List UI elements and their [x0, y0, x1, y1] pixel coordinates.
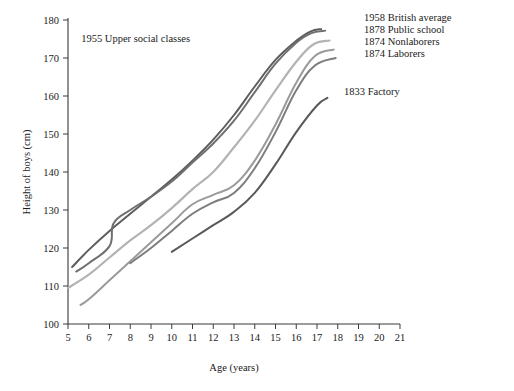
x-tick-label: 17: [312, 332, 323, 343]
axis-lines: [68, 18, 400, 324]
x-tick-label: 11: [187, 332, 197, 343]
y-tick-label: 180: [43, 15, 59, 26]
x-tick-label: 20: [374, 332, 385, 343]
x-tick-label: 6: [86, 332, 91, 343]
y-tick-label: 170: [43, 53, 59, 64]
series-line: [68, 41, 329, 288]
y-tick-label: 110: [44, 281, 59, 292]
series-labels: 1958 British average1955 Upper social cl…: [81, 12, 452, 97]
x-tick-label: 14: [250, 332, 261, 343]
series-label: 1958 British average: [364, 12, 452, 23]
y-tick-label: 150: [43, 129, 59, 140]
x-tick-label: 5: [65, 332, 70, 343]
y-axis-title: Height of boys (cm): [21, 129, 33, 214]
y-tick-label: 120: [43, 243, 59, 254]
series-label: 1874 Laborers: [364, 48, 425, 59]
series-lines: [68, 29, 336, 305]
axes: 1001101201301401501601701805678910111213…: [43, 15, 405, 343]
series-label: 1955 Upper social classes: [81, 33, 190, 44]
x-tick-label: 7: [107, 332, 112, 343]
x-tick-label: 18: [333, 332, 344, 343]
series-line: [72, 29, 321, 267]
x-tick-label: 16: [291, 332, 302, 343]
y-tick-label: 160: [43, 91, 59, 102]
series-label: 1874 Nonlaborers: [364, 36, 440, 47]
x-tick-label: 12: [208, 332, 219, 343]
series-label: 1833 Factory: [344, 86, 400, 97]
x-tick-label: 19: [353, 332, 364, 343]
x-tick-label: 9: [148, 332, 153, 343]
y-tick-label: 140: [43, 167, 59, 178]
y-tick-label: 100: [43, 319, 59, 330]
series-label: 1878 Public school: [364, 24, 445, 35]
x-tick-label: 8: [128, 332, 133, 343]
y-tick-label: 130: [43, 205, 59, 216]
x-tick-label: 10: [167, 332, 178, 343]
x-axis-title: Age (years): [209, 362, 259, 374]
x-tick-label: 21: [395, 332, 406, 343]
series-line: [76, 31, 325, 272]
x-tick-label: 15: [270, 332, 281, 343]
x-tick-label: 13: [229, 332, 240, 343]
line-chart-svg: 1001101201301401501601701805678910111213…: [0, 0, 514, 391]
chart-container: 1001101201301401501601701805678910111213…: [0, 0, 514, 391]
